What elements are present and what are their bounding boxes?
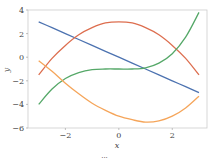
- y-tick-label: 4: [19, 6, 24, 15]
- y-axis-label: y: [2, 67, 11, 73]
- y-tick-label: −4: [12, 100, 24, 109]
- y-tick-label: −2: [12, 77, 24, 86]
- x-axis-label: x: [115, 141, 120, 150]
- y-tick-label: −6: [12, 124, 24, 133]
- y-tick-label: 0: [19, 53, 24, 62]
- line-chart: 420−2−4−6 −202 x y: [0, 0, 209, 164]
- x-tick-label: 2: [170, 131, 175, 140]
- x-tick-label: −2: [60, 131, 72, 140]
- x-axis-ticks: −202: [60, 128, 175, 140]
- y-axis-ticks: 420−2−4−6: [12, 6, 28, 133]
- figure-caption: ···: [0, 154, 209, 162]
- y-tick-label: 2: [19, 30, 24, 39]
- x-tick-label: 0: [116, 131, 121, 140]
